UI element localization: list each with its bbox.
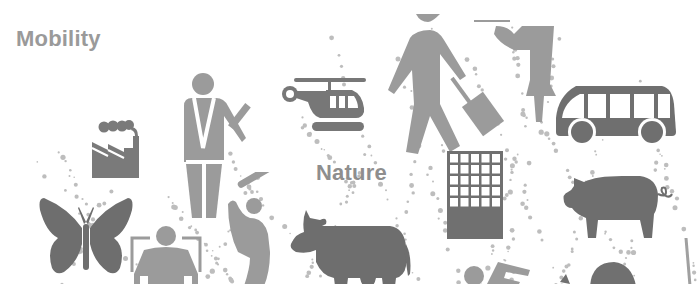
bottom-margin (0, 284, 697, 297)
pictogram-collage: Mobility Nature (0, 0, 697, 297)
bottom-partial-shapes (0, 0, 697, 297)
